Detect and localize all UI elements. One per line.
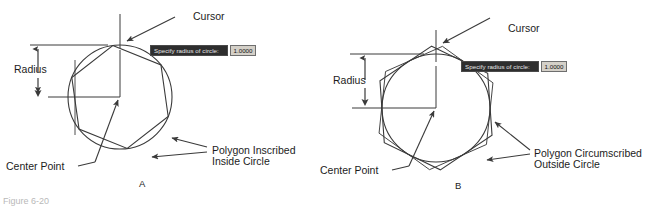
panel-a-graphics [30,14,207,166]
panel-letter-a: A [139,178,145,189]
figure-caption: Figure 6-20 [3,196,49,206]
radius-label-a: Radius [14,63,47,75]
center-point-label-a: Center Point [6,160,64,172]
panel-letter-b: B [455,180,461,191]
command-value-text-a: 1.0000 [234,46,253,55]
command-prompt-a[interactable]: Specify radius of circle: [150,45,228,56]
polygon-leader-1-b [495,122,530,150]
center-leader-b [409,111,434,166]
command-prompt-b[interactable]: Specify radius of circle: [461,61,539,72]
command-value-input-b[interactable]: 1.0000 [541,61,567,72]
radius-label-b: Radius [333,74,366,86]
cursor-label-a: Cursor [193,10,225,22]
polygon-leader-2-a [152,152,207,157]
center-leader-tail-a [78,162,95,166]
polygon-leader-2-b [487,154,530,160]
panel-b-graphics [350,18,530,175]
figure-container: Cursor Radius Center Point Polygon Inscr… [0,0,653,209]
center-leader-tail-b [392,166,409,170]
polygon-label-b-line2: Outside Circle [534,158,600,170]
command-prompt-text-a: Specify radius of circle: [154,46,219,55]
command-value-text-b: 1.0000 [545,62,564,71]
polygon-label-a-line2: Inside Circle [212,155,270,167]
command-prompt-text-b: Specify radius of circle: [465,62,530,71]
polygon-leader-1-a [172,138,207,147]
cursor-leader-b [443,18,490,43]
diagram-canvas [0,0,653,209]
cursor-label-b: Cursor [508,22,540,34]
command-value-input-a[interactable]: 1.0000 [230,45,256,56]
center-leader-a [95,100,118,162]
center-point-label-b: Center Point [320,164,378,176]
cursor-leader-a [127,17,175,41]
